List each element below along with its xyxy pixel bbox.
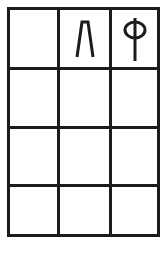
grid-cell-r3-c2[interactable] xyxy=(112,187,157,234)
grid-cell-r1-c1[interactable] xyxy=(60,70,109,126)
grid-cell-r2-c1[interactable] xyxy=(60,129,109,184)
grid-cell-r0-c1[interactable]: Λ xyxy=(60,10,109,67)
grid-cell-r2-c2[interactable] xyxy=(112,129,157,184)
grid-cell-r2-c0[interactable] xyxy=(10,129,57,184)
grid-cell-r0-c0[interactable] xyxy=(10,10,57,67)
grid-cell-r3-c1[interactable] xyxy=(60,187,109,234)
phi-like-glyph-icon: Φ xyxy=(121,16,149,62)
lambda-like-glyph-icon: Λ xyxy=(73,19,97,59)
grid-cell-r3-c0[interactable] xyxy=(10,187,57,234)
grid-cell-r1-c2[interactable] xyxy=(112,70,157,126)
symbol-grid: Λ Φ xyxy=(7,7,160,237)
grid-cell-r0-c2[interactable]: Φ xyxy=(112,10,157,67)
grid-cell-r1-c0[interactable] xyxy=(10,70,57,126)
